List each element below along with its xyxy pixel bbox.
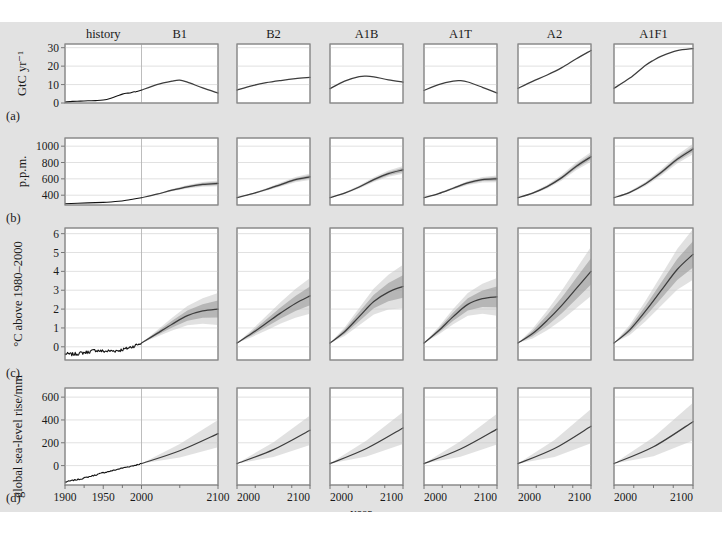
x-tick-label: 2000	[130, 491, 153, 503]
y-tick-label: 6	[53, 228, 59, 240]
panel-background	[518, 44, 591, 103]
y-axis-label-d: global sea-level rise/mm	[11, 375, 25, 498]
column-title-A1F1: A1F1	[639, 27, 667, 41]
x-tick-label: 2000	[614, 491, 637, 503]
y-tick-label: 5	[53, 247, 59, 259]
y-tick-label: 400	[42, 189, 60, 201]
x-tick-label: 1900	[54, 491, 77, 503]
panel-c-A1B	[330, 228, 403, 360]
y-tick-label: 0	[53, 341, 59, 353]
y-axis-label-a: GtC yr⁻¹	[15, 51, 29, 96]
panel-b-B2	[237, 138, 310, 205]
y-axis-label-c: °C above 1980–2000	[11, 241, 25, 347]
panel-a-A1B	[330, 44, 403, 103]
x-tick-label: 2100	[207, 491, 230, 503]
panel-c-A1F1	[614, 228, 693, 360]
panel-a-A2	[518, 44, 591, 103]
y-tick-label: 3	[53, 284, 59, 296]
column-title-A1B: A1B	[355, 27, 379, 41]
column-title-A2: A2	[547, 27, 562, 41]
y-tick-label: 600	[42, 391, 60, 403]
y-tick-label: 200	[42, 437, 60, 449]
panel-d-A1B: 20002100	[330, 388, 403, 503]
panel-d-B2: 20002100	[237, 388, 310, 503]
y-tick-label: 2	[53, 303, 59, 315]
y-tick-label: 20	[48, 60, 60, 72]
y-tick-label: 4	[53, 265, 59, 277]
column-title-A1T: A1T	[449, 27, 472, 41]
x-tick-label: 2100	[287, 491, 310, 503]
y-tick-label: 400	[42, 414, 60, 426]
panel-background	[424, 44, 497, 103]
row-tag-d: (d)	[6, 491, 21, 505]
panel-c-A1T	[424, 228, 497, 360]
x-tick-label: 2000	[518, 491, 541, 503]
x-tick-label: 2000	[424, 491, 447, 503]
panel-c-A2	[518, 228, 591, 360]
y-tick-label: 1000	[36, 140, 59, 152]
column-title-history: history	[86, 27, 121, 41]
panel-d-history-B1: 0200400600global sea-level rise/mm(d)190…	[6, 375, 230, 505]
y-tick-label: 10	[48, 79, 60, 91]
figure-caption	[0, 516, 722, 551]
panel-background	[237, 44, 310, 103]
y-tick-label: 0	[53, 97, 59, 109]
panel-c-history-B1: 0123456°C above 1980–2000(c)	[6, 228, 218, 380]
panel-b-A1F1	[614, 138, 693, 205]
panel-c-B2	[237, 228, 310, 360]
panel-background	[330, 44, 403, 103]
column-title-B2: B2	[266, 27, 281, 41]
panel-b-history-B1: 4006008001000p.p.m.(b)	[6, 138, 218, 225]
y-axis-label-b: p.p.m.	[15, 156, 29, 188]
figure-root: historyB1B2A1BA1TA2A1F10102030GtC yr⁻¹(a…	[0, 0, 722, 551]
panel-d-A2: 20002100	[518, 388, 591, 503]
panel-b-A1B	[330, 138, 403, 205]
panel-a-B2	[237, 44, 310, 103]
scenario-grid-chart: historyB1B2A1BA1TA2A1F10102030GtC yr⁻¹(a…	[0, 22, 722, 512]
row-tag-a: (a)	[6, 109, 20, 123]
panel-b-A1T	[424, 138, 497, 205]
panel-a-history-B1: 0102030GtC yr⁻¹(a)	[6, 42, 218, 123]
y-tick-label: 800	[42, 157, 60, 169]
x-tick-label: 1950	[92, 491, 115, 503]
x-tick-label: 2100	[474, 491, 497, 503]
panel-a-A1F1	[614, 44, 693, 103]
panel-background	[614, 44, 693, 103]
x-axis-label: year	[350, 506, 372, 512]
y-tick-label: 1	[53, 322, 59, 334]
row-tag-b: (b)	[6, 211, 21, 225]
y-tick-label: 600	[42, 173, 60, 185]
panel-d-A1T: 20002100	[424, 388, 497, 503]
panel-b-A2	[518, 138, 591, 205]
x-tick-label: 2100	[568, 491, 591, 503]
x-tick-label: 2000	[237, 491, 260, 503]
panel-a-A1T	[424, 44, 497, 103]
y-tick-label: 30	[48, 42, 60, 54]
x-tick-label: 2100	[380, 491, 403, 503]
x-tick-label: 2100	[670, 491, 693, 503]
panel-d-A1F1: 20002100	[614, 388, 693, 503]
x-tick-label: 2000	[330, 491, 353, 503]
column-title-B1: B1	[172, 27, 187, 41]
plot-area: historyB1B2A1BA1TA2A1F10102030GtC yr⁻¹(a…	[0, 22, 722, 512]
y-tick-label: 0	[53, 460, 59, 472]
